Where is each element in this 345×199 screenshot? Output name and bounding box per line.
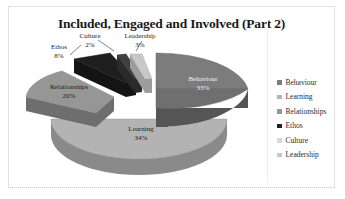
plot-legend-divider — [267, 21, 268, 183]
legend-item-relationships[interactable]: Relationships — [277, 104, 345, 119]
legend-item-culture[interactable]: Culture — [277, 133, 345, 148]
legend-label: Leadership — [286, 150, 319, 159]
slice-label-learning-pct: 34% — [106, 134, 176, 143]
slice-label-culture-pct: 2% — [71, 41, 109, 50]
slice-label-leadership-name: Leadership — [124, 32, 155, 40]
slice-label-leadership-pct: 3% — [114, 41, 166, 50]
legend-swatch-icon — [277, 95, 282, 100]
slice-label-leadership: Leadership 3% — [114, 32, 166, 49]
legend-swatch-icon — [277, 138, 282, 143]
legend-label: Culture — [286, 136, 309, 145]
slice-label-ethos-pct: 8% — [42, 52, 76, 61]
pie-chart-plot-area: Behaviour 33% Learning 34% Relationships… — [18, 31, 264, 181]
slice-label-relationships-name: Relationships — [50, 83, 88, 91]
slice-label-behaviour-name: Behaviour — [188, 75, 217, 83]
slice-label-learning: Learning 34% — [106, 125, 176, 142]
chart-frame: Included, Engaged and Involved (Part 2) — [8, 6, 335, 188]
slice-label-relationships: Relationships 20% — [30, 83, 108, 100]
slice-label-ethos-name: Ethos — [51, 43, 67, 51]
slice-label-behaviour-pct: 33% — [168, 84, 238, 93]
slice-label-relationships-pct: 20% — [30, 92, 108, 101]
slice-label-culture-name: Culture — [80, 32, 101, 40]
slice-label-learning-name: Learning — [128, 125, 153, 133]
legend-item-leadership[interactable]: Leadership — [277, 148, 345, 163]
legend-label: Learning — [286, 92, 313, 101]
legend-swatch-icon — [277, 124, 282, 129]
legend-label: Behaviour — [286, 78, 317, 87]
chart-title: Included, Engaged and Involved (Part 2) — [9, 16, 334, 32]
chart-legend: Behaviour Learning Relationships Ethos C… — [277, 75, 345, 162]
legend-item-learning[interactable]: Learning — [277, 90, 345, 105]
legend-swatch-icon — [277, 153, 282, 158]
legend-label: Relationships — [286, 107, 327, 116]
legend-swatch-icon — [277, 80, 282, 85]
legend-swatch-icon — [277, 109, 282, 114]
slice-label-behaviour: Behaviour 33% — [168, 75, 238, 92]
slice-label-culture: Culture 2% — [71, 32, 109, 49]
legend-item-ethos[interactable]: Ethos — [277, 119, 345, 134]
legend-item-behaviour[interactable]: Behaviour — [277, 75, 345, 90]
legend-label: Ethos — [286, 121, 303, 130]
